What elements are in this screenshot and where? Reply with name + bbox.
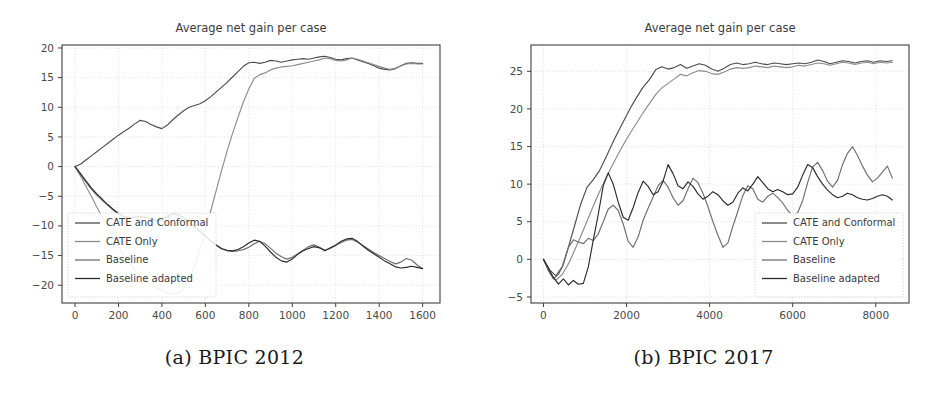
legend-label: CATE and Conformal xyxy=(106,217,208,228)
chart-b-svg: Average net gain per case2520151050−5020… xyxy=(469,0,938,340)
x-tick-label: 6000 xyxy=(779,309,806,321)
chart-b-container: Average net gain per case2520151050−5020… xyxy=(469,0,938,340)
x-tick-label: 1200 xyxy=(322,309,349,321)
x-tick-label: 0 xyxy=(72,309,79,321)
x-tick-label: 1000 xyxy=(279,309,306,321)
chart-legend: CATE and ConformalCATE OnlyBaselineBasel… xyxy=(68,213,216,297)
x-tick-label: 4000 xyxy=(696,309,723,321)
legend-label: Baseline adapted xyxy=(106,273,193,284)
legend-label: Baseline xyxy=(106,254,148,265)
y-tick-label: 20 xyxy=(510,103,523,115)
chart-legend: CATE and ConformalCATE OnlyBaselineBasel… xyxy=(755,213,903,297)
legend-label: CATE and Conformal xyxy=(793,217,895,228)
subfigure-b: Average net gain per case2520151050−5020… xyxy=(469,0,938,419)
subfigure-a: Average net gain per case20151050−5−10−1… xyxy=(0,0,469,419)
legend-label: CATE Only xyxy=(793,236,845,247)
y-tick-label: 25 xyxy=(510,65,523,77)
x-tick-label: 600 xyxy=(195,309,215,321)
y-tick-label: 15 xyxy=(41,71,54,83)
legend-label: Baseline adapted xyxy=(793,273,880,284)
y-tick-label: 0 xyxy=(47,160,54,172)
chart-a-svg: Average net gain per case20151050−5−10−1… xyxy=(0,0,469,340)
y-tick-label: 20 xyxy=(41,42,54,54)
y-tick-label: 5 xyxy=(47,131,54,143)
x-tick-label: 2000 xyxy=(613,309,640,321)
y-tick-label: 0 xyxy=(516,253,523,265)
y-tick-label: 15 xyxy=(510,140,523,152)
y-tick-label: −15 xyxy=(32,249,54,261)
y-tick-label: 10 xyxy=(41,101,54,113)
x-tick-label: 200 xyxy=(108,309,128,321)
chart-a-container: Average net gain per case20151050−5−10−1… xyxy=(0,0,469,340)
x-tick-label: 0 xyxy=(540,309,547,321)
x-tick-label: 400 xyxy=(152,309,172,321)
x-tick-label: 1400 xyxy=(366,309,393,321)
y-tick-label: −10 xyxy=(32,219,54,231)
y-tick-label: 10 xyxy=(510,178,523,190)
y-tick-label: −20 xyxy=(32,279,54,291)
x-tick-label: 1600 xyxy=(409,309,436,321)
chart-title: Average net gain per case xyxy=(644,21,795,35)
chart-title: Average net gain per case xyxy=(175,21,326,35)
y-tick-label: −5 xyxy=(39,190,54,202)
y-tick-label: −5 xyxy=(508,291,523,303)
y-tick-label: 5 xyxy=(516,215,523,227)
figure-row: Average net gain per case20151050−5−10−1… xyxy=(0,0,938,419)
caption-b: (b) BPIC 2017 xyxy=(633,346,773,368)
x-tick-label: 8000 xyxy=(862,309,889,321)
caption-a: (a) BPIC 2012 xyxy=(165,346,304,368)
legend-label: Baseline xyxy=(793,254,835,265)
x-tick-label: 800 xyxy=(239,309,259,321)
legend-label: CATE Only xyxy=(106,236,158,247)
